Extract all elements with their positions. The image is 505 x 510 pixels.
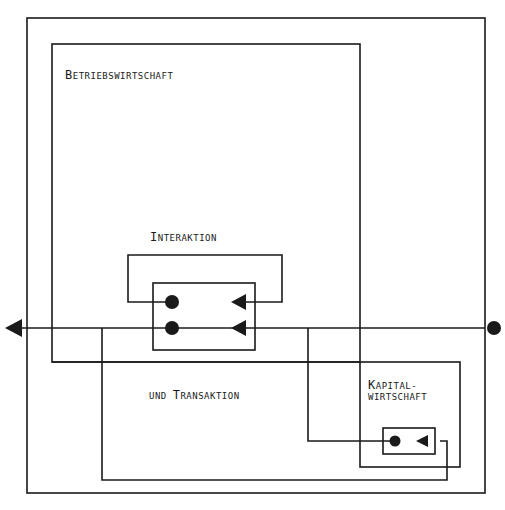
label-rest: ETRIEBSWIRTSCHAFT [73, 71, 174, 81]
interaktion-label: INTERAKTION [150, 230, 217, 244]
interaktion-loop [128, 255, 282, 302]
label-initial: B [65, 68, 73, 82]
betriebswirtschaft-box [52, 44, 360, 362]
output-arrow-left-icon [5, 319, 22, 337]
kapital-arrow-icon [416, 435, 428, 447]
label-initial: K [368, 378, 376, 392]
kapital-label-line2: WIRTSCHAFT [368, 392, 427, 402]
interaktion-dot-bottom-icon [165, 321, 179, 335]
kapital-dot-icon [390, 436, 401, 447]
interaktion-dot-top-icon [165, 295, 179, 309]
transaktion-label: UND TRANSAKTION [149, 388, 240, 402]
label-rest: RANSAKTION [180, 391, 239, 401]
label-prefix: UND [149, 391, 173, 401]
kapital-label-line1: KAPITAL- [368, 378, 417, 392]
interaktion-arrow-top-icon [231, 294, 246, 310]
betriebswirtschaft-label: BETRIEBSWIRTSCHAFT [65, 68, 173, 82]
label-rest: APITAL- [376, 381, 417, 391]
interaktion-box [153, 283, 255, 350]
label-rest: NTERAKTION [158, 233, 217, 243]
input-dot-right-icon [487, 321, 501, 335]
interaktion-arrow-bottom-icon [231, 320, 246, 336]
label-initial: I [150, 230, 158, 244]
